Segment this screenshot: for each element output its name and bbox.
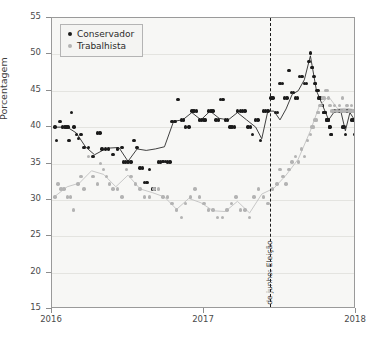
data-point	[168, 160, 171, 163]
data-point	[259, 139, 262, 142]
data-point	[290, 160, 293, 163]
data-point	[338, 104, 341, 107]
data-point	[239, 208, 242, 211]
data-point	[315, 118, 318, 121]
data-point	[327, 118, 330, 121]
data-point	[285, 96, 288, 99]
data-point	[243, 208, 246, 211]
data-point	[221, 98, 224, 101]
data-point	[266, 202, 269, 205]
data-point	[96, 182, 99, 185]
data-point	[182, 118, 185, 121]
x-axis-tick	[51, 308, 52, 313]
data-point	[132, 139, 135, 142]
data-point	[193, 187, 196, 190]
data-point	[221, 216, 224, 219]
x-axis-tick-label: 2017	[183, 315, 223, 324]
data-point	[353, 133, 355, 136]
y-axis-tick-label: 35	[1, 158, 41, 167]
legend-item-conservador: Conservador	[66, 28, 134, 40]
y-axis-tick-label: 15	[1, 303, 41, 312]
election-annotation-label: 8 de junho: Eleição	[265, 240, 274, 308]
data-point	[313, 75, 316, 78]
data-point	[79, 175, 82, 178]
data-point	[176, 98, 179, 101]
data-point	[294, 155, 297, 158]
data-point	[303, 155, 306, 158]
data-point	[87, 155, 90, 158]
data-point	[226, 118, 229, 121]
polling-scatter-chart: Porcentagem 8 de junho: Eleição Conserva…	[0, 0, 380, 341]
data-point	[256, 118, 259, 121]
data-point	[287, 168, 290, 171]
data-point	[157, 187, 160, 190]
data-point	[204, 118, 207, 121]
legend-marker-trabalhista	[68, 44, 72, 48]
x-axis-tick-label: 2018	[335, 315, 375, 324]
legend-item-trabalhista: Trabalhista	[66, 40, 134, 52]
data-point	[271, 187, 274, 190]
data-point	[56, 182, 59, 185]
data-point	[62, 187, 65, 190]
data-point	[341, 96, 344, 99]
data-point	[120, 146, 123, 149]
y-axis-tick	[46, 199, 51, 200]
data-point	[145, 181, 148, 184]
data-point	[284, 182, 287, 185]
data-point	[296, 96, 299, 99]
legend-label-conservador: Conservador	[77, 28, 134, 40]
data-point	[180, 216, 183, 219]
data-point	[350, 104, 353, 107]
data-point	[195, 109, 198, 112]
data-point	[66, 125, 69, 128]
y-axis-tick	[46, 90, 51, 91]
data-point	[266, 109, 269, 112]
data-point	[342, 125, 345, 128]
data-point	[116, 187, 119, 190]
y-axis-tick	[46, 126, 51, 127]
data-point	[281, 82, 284, 85]
data-point	[262, 195, 265, 198]
data-point	[309, 51, 312, 54]
data-point	[53, 195, 56, 198]
data-point	[319, 104, 322, 107]
y-axis-tick-label: 55	[1, 12, 41, 21]
trend-line-conservador	[55, 56, 354, 161]
data-point	[322, 96, 325, 99]
data-point	[275, 182, 278, 185]
data-point	[138, 187, 141, 190]
data-point	[68, 139, 71, 142]
y-axis-tick	[46, 17, 51, 18]
data-point	[53, 125, 56, 128]
data-point	[307, 60, 310, 63]
data-point	[211, 109, 214, 112]
data-point	[327, 96, 330, 99]
data-point	[287, 69, 290, 72]
x-axis-tick	[203, 308, 204, 313]
data-point	[129, 175, 132, 178]
data-point	[116, 147, 119, 150]
data-point	[300, 147, 303, 150]
data-point	[129, 160, 132, 163]
y-axis-tick	[46, 163, 51, 164]
data-point	[300, 75, 303, 78]
data-point	[148, 195, 151, 198]
data-point	[217, 118, 220, 121]
data-point	[278, 168, 281, 171]
data-point	[107, 147, 110, 150]
data-point	[353, 109, 355, 112]
legend: Conservador Trabalhista	[60, 24, 143, 57]
y-axis-tick	[46, 272, 51, 273]
data-point	[207, 208, 210, 211]
data-point	[297, 160, 300, 163]
data-point	[173, 120, 176, 123]
x-axis-tick	[355, 308, 356, 313]
y-axis-tick-label: 30	[1, 194, 41, 203]
data-point	[91, 175, 94, 178]
data-point	[148, 168, 151, 171]
data-point	[76, 182, 79, 185]
data-point	[345, 104, 348, 107]
data-point	[252, 195, 255, 198]
data-point	[59, 120, 62, 123]
data-point	[141, 166, 144, 169]
